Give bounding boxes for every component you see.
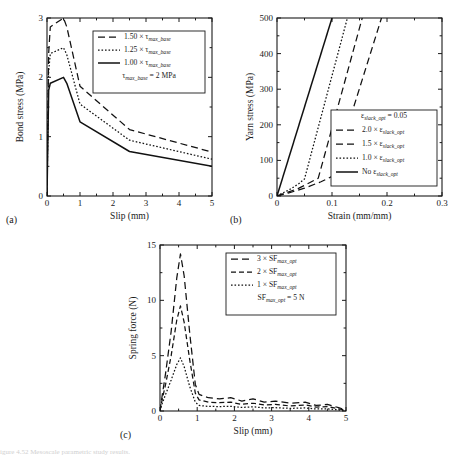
svg-text:Spring force (N): Spring force (N) [128, 297, 139, 360]
svg-text:0.1: 0.1 [326, 198, 337, 208]
panel-b-label: (b) [230, 214, 242, 225]
svg-text:1: 1 [78, 198, 83, 208]
svg-text:10: 10 [147, 295, 157, 305]
svg-text:15: 15 [147, 240, 157, 250]
svg-text:2: 2 [232, 413, 237, 423]
svg-text:2: 2 [39, 72, 44, 82]
svg-text:3: 3 [39, 13, 44, 23]
svg-text:4: 4 [307, 413, 312, 423]
svg-text:0.2: 0.2 [381, 198, 392, 208]
svg-text:Slip (mm): Slip (mm) [234, 426, 273, 437]
svg-text:100: 100 [260, 155, 274, 165]
svg-text:1: 1 [195, 413, 200, 423]
svg-text:0: 0 [152, 406, 157, 416]
svg-text:0: 0 [45, 198, 50, 208]
panel-c-label: (c) [120, 429, 131, 440]
svg-text:Bond stress (MPa): Bond stress (MPa) [15, 72, 26, 143]
svg-text:1: 1 [39, 132, 44, 142]
svg-text:0: 0 [158, 413, 163, 423]
svg-text:400: 400 [260, 49, 274, 59]
svg-text:0.3: 0.3 [436, 198, 448, 208]
chart-a: 0123450123Slip (mm)Bond stress (MPa)1.50… [0, 0, 226, 231]
svg-text:3: 3 [269, 413, 274, 423]
svg-text:2: 2 [111, 198, 116, 208]
svg-text:0: 0 [269, 191, 274, 201]
panel-b: 00.10.20.30100200300400500Strain (mm/mm)… [226, 0, 453, 231]
svg-text:0: 0 [275, 198, 280, 208]
svg-text:Yarn stress (MPa): Yarn stress (MPa) [245, 73, 256, 141]
figure-container: 0123450123Slip (mm)Bond stress (MPa)1.50… [0, 0, 453, 462]
svg-text:200: 200 [260, 120, 274, 130]
panel-a: 0123450123Slip (mm)Bond stress (MPa)1.50… [0, 0, 226, 231]
figure-caption-faint: igure 4.52 Mesoscale parametric study re… [0, 448, 453, 456]
svg-text:3: 3 [144, 198, 149, 208]
svg-text:500: 500 [260, 13, 274, 23]
svg-text:0: 0 [39, 191, 44, 201]
svg-text:300: 300 [260, 84, 274, 94]
svg-text:Slip (mm): Slip (mm) [110, 211, 149, 222]
chart-b: 00.10.20.30100200300400500Strain (mm/mm)… [226, 0, 453, 231]
chart-c: 012345051015Slip (mm)Spring force (N)3 ×… [108, 231, 368, 448]
svg-text:Strain (mm/mm): Strain (mm/mm) [328, 211, 392, 222]
svg-text:4: 4 [177, 198, 182, 208]
panel-c: 012345051015Slip (mm)Spring force (N)3 ×… [108, 231, 368, 448]
svg-text:5: 5 [210, 198, 215, 208]
svg-text:5: 5 [344, 413, 349, 423]
svg-text:5: 5 [152, 351, 157, 361]
panel-a-label: (a) [6, 214, 17, 225]
